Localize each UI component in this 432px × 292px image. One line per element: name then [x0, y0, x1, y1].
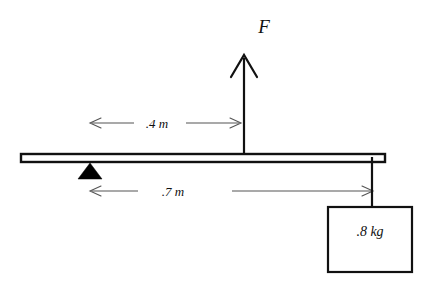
force-label: F [257, 16, 270, 37]
hanging-block [328, 207, 412, 272]
dim7-label: .7 m [162, 184, 184, 199]
physics-lever-diagram: F .4 m .7 m [0, 0, 432, 292]
rigid-beam [21, 154, 385, 162]
dim4-label: .4 m [146, 116, 168, 131]
diagram-canvas: F .4 m .7 m [0, 0, 432, 292]
hanging-mass-label: .8 kg [356, 224, 383, 239]
